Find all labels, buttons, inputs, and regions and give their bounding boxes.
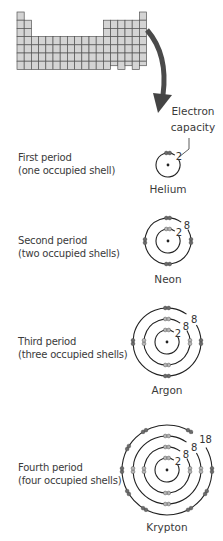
element-name-argon: Argon xyxy=(137,384,197,396)
shell-capacity-label: 8 xyxy=(184,220,190,231)
element-name-krypton: Krypton xyxy=(137,521,197,533)
period-title: First period xyxy=(18,151,115,164)
period-title: Second period xyxy=(18,234,120,247)
shell-capacity-label: 8 xyxy=(183,321,189,332)
nucleus xyxy=(166,469,169,472)
period-label-1: First period (one occupied shell) xyxy=(18,151,115,177)
period-title: Fourth period xyxy=(18,461,121,474)
element-name-neon: Neon xyxy=(138,273,198,285)
shell-capacity-label: 8 xyxy=(183,449,189,460)
shell-capacity-label: 2 xyxy=(176,151,182,162)
capacity-line-2: capacity xyxy=(163,119,223,135)
period-title: Third period xyxy=(18,335,128,348)
atom-argon: 288 xyxy=(131,306,203,378)
capacity-line-1: Electron xyxy=(163,103,223,119)
arrow-icon xyxy=(147,30,172,113)
period-subtitle: (one occupied shell) xyxy=(18,164,115,177)
periodic-table xyxy=(17,12,147,69)
period-label-4: Fourth period (four occupied shells) xyxy=(18,461,121,487)
nucleus xyxy=(167,164,170,167)
shell-capacity-label: 2 xyxy=(175,328,181,339)
period-label-2: Second period (two occupied shells) xyxy=(18,234,120,260)
nucleus xyxy=(167,240,170,243)
nucleus xyxy=(166,341,169,344)
atom-helium: 2 xyxy=(156,151,182,177)
atom-neon: 28 xyxy=(143,216,193,266)
diagram-canvas: 22828828818 xyxy=(0,0,223,541)
electron-capacity-label: Electron capacity xyxy=(163,103,223,135)
shell-capacity-label: 18 xyxy=(199,434,212,445)
atom-krypton: 28818 xyxy=(120,425,214,515)
shell-capacity-label: 8 xyxy=(191,442,197,453)
period-label-3: Third period (three occupied shells) xyxy=(18,335,128,361)
shell-capacity-label: 2 xyxy=(175,456,181,467)
period-subtitle: (four occupied shells) xyxy=(18,474,121,487)
period-subtitle: (three occupied shells) xyxy=(18,348,128,361)
shell-capacity-label: 8 xyxy=(191,314,197,325)
period-subtitle: (two occupied shells) xyxy=(18,247,120,260)
shell-capacity-label: 2 xyxy=(176,227,182,238)
element-name-helium: Helium xyxy=(138,183,198,195)
